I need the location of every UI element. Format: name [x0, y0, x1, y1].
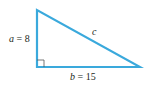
side-a-value: = 8	[14, 33, 30, 44]
right-triangle	[37, 10, 140, 67]
side-a-label: a = 8	[9, 34, 30, 44]
hypotenuse-c-label: c	[92, 27, 96, 37]
side-b-value: = 15	[75, 71, 96, 82]
hypotenuse-variable: c	[92, 26, 96, 37]
side-b-label: b = 15	[70, 72, 96, 82]
